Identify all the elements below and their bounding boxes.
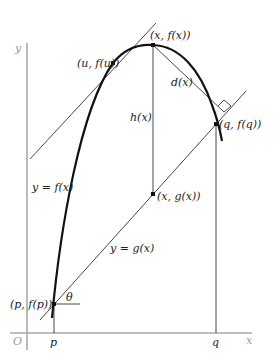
label-h: h(x) [130, 111, 152, 124]
x-axis-label: x [246, 334, 253, 347]
diagram-canvas: y x O p q (u, f(u)) (x, f(x)) (q, f(q)) … [0, 0, 273, 361]
label-u-point: (u, f(u)) [77, 57, 119, 70]
label-d: d(x) [171, 76, 193, 89]
point-x-bottom-marker [151, 192, 155, 196]
point-x-top-marker [151, 43, 155, 47]
tangent-line-at-u [30, 23, 156, 159]
label-x-top-point: (x, f(x)) [150, 29, 191, 42]
label-x-bottom-point: (x, g(x)) [157, 190, 201, 203]
label-line-g: y = g(x) [109, 242, 154, 255]
label-q-point: (q, f(q)) [219, 118, 261, 131]
origin-label: O [13, 335, 22, 348]
point-q-marker [214, 122, 218, 126]
label-curve-f: y = f(x) [31, 181, 73, 194]
y-axis-label: y [14, 42, 22, 55]
tick-p-label: p [50, 336, 57, 349]
tick-q-label: q [212, 336, 219, 349]
label-p-point: (p, f(p)) [10, 298, 52, 311]
label-theta: θ [66, 291, 73, 304]
point-p-marker [52, 302, 56, 306]
